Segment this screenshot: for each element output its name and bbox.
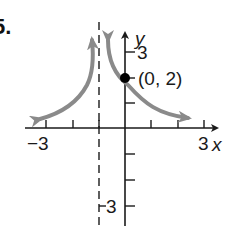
y-axis xyxy=(99,33,135,226)
x-axis xyxy=(25,120,217,128)
graph-canvas xyxy=(0,0,230,228)
point-label: (0, 2) xyxy=(138,69,182,88)
x-axis-label: x xyxy=(212,135,222,154)
point-marker xyxy=(120,73,130,83)
x-tick-label-3: 3 xyxy=(198,134,209,153)
y-tick-label-neg3: 3 xyxy=(106,197,117,216)
y-tick-label-3: 3 xyxy=(137,43,148,62)
x-tick-label-neg3: −3 xyxy=(27,134,49,153)
curve-left-branch xyxy=(40,40,93,119)
graph-figure: 5. xyxy=(0,0,230,228)
